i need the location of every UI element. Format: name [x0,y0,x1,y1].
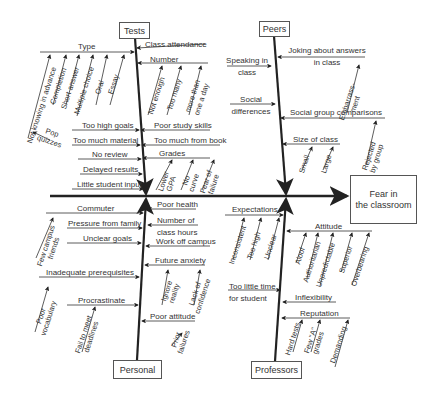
cause-attitude: Attitude [315,222,342,231]
effect-line-2: the classroom [355,200,411,211]
category-label-peers: Peers [263,24,287,34]
cause-social-group-comparisons: Social group comparisons [290,108,382,117]
cause-number: Number [150,55,178,64]
cause-work-off-campus: Work off campus [156,237,216,246]
cause-speaking-in-class: Speaking in class [224,56,270,77]
joking-line2: in class [287,58,367,67]
speaking-line2: class [224,68,270,77]
cause-little-student-input: Little student input [77,180,142,189]
category-box-professors: Professors [251,361,302,379]
category-label-tests: Tests [124,26,145,36]
cause-social-differences: Social differences [228,95,274,116]
cause-inflexibility: Inflexibility [295,293,332,302]
class-hours-line2: class hours [157,228,197,237]
cause-inadequate-prerequisites: Inadequate prerequisites [46,268,134,277]
cause-joking: Joking about answers in class [287,46,367,67]
cause-poor-study-skills: Poor study skills [154,121,212,130]
cause-procrastinate: Procrastinate [78,296,125,305]
cause-expectations: Expectations [232,205,278,214]
too-little-time-line2: for student [229,294,276,303]
effect-line-1: Fear in [369,189,397,200]
cause-delayed-results: Delayed results [83,165,138,174]
cause-unclear-goals: Unclear goals [83,234,132,243]
social-diff-line1: Social [228,95,274,104]
cause-too-much-from-book: Too much from book [154,136,226,145]
social-diff-line2: differences [228,107,274,116]
cause-size-of-class: Size of class [293,135,338,144]
cause-future-anxiety: Future anxiety [155,256,206,265]
class-hours-line1: Number of [157,216,197,225]
cause-class-attendance: Class attendance [145,40,207,49]
cause-pressure-from-family: Pressure from family [68,219,141,228]
speaking-line1: Speaking in [224,56,270,65]
cause-commuter: Commuter [77,204,114,213]
cause-grades: Grades [159,149,185,158]
cause-no-review: No review [92,150,128,159]
cause-number-of-class-hours: Number of class hours [157,216,197,237]
cause-type: Type [78,42,95,51]
category-box-peers: Peers [259,21,290,37]
category-box-personal: Personal [113,360,162,379]
cause-reputation: Reputation [300,309,339,318]
too-little-time-line1: Too little time [229,282,276,291]
cause-too-little-time: Too little time for student [229,282,276,303]
category-box-tests: Tests [119,22,150,39]
cause-poor-health: Poor health [157,200,198,209]
cause-too-high-goals: Too high goals [82,121,134,130]
joking-line1: Joking about answers [287,46,367,55]
category-label-personal: Personal [120,365,156,375]
category-label-professors: Professors [255,365,298,375]
cause-too-much-material: Too much material [73,136,138,145]
fishbone-diagram: Tests Peers Personal Professors Fear in … [0,0,439,400]
effect-box: Fear in the classroom [350,175,417,224]
cause-poor-attitude: Poor attitude [150,312,195,321]
